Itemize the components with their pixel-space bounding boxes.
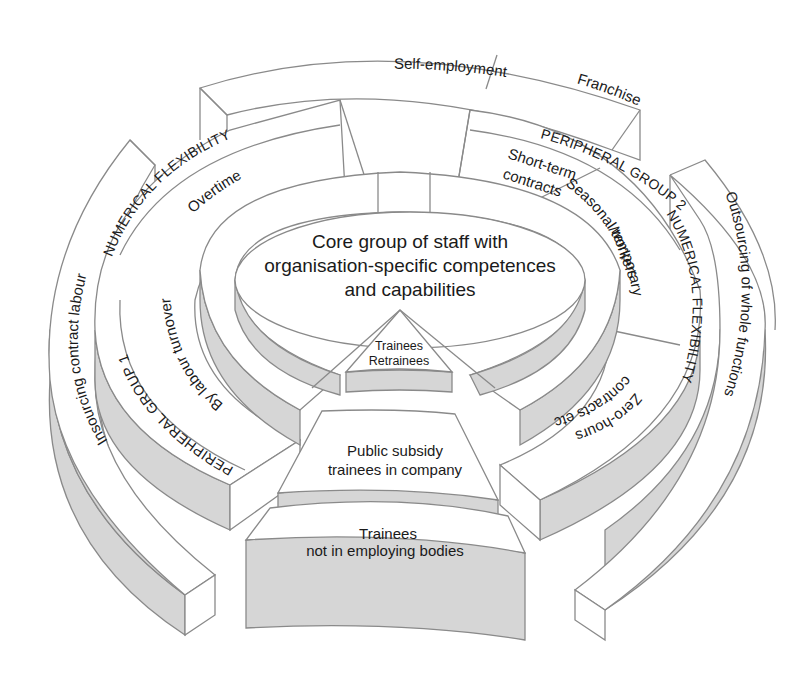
core-label-line1: Core group of staff with — [312, 231, 508, 252]
trainees-inner-line1: Trainees — [375, 339, 423, 353]
flexible-firm-diagram: Core group of staff with organisation-sp… — [0, 0, 800, 681]
public-subsidy-line1: Public subsidy — [347, 442, 443, 459]
core-label-line3: and capabilities — [345, 279, 476, 300]
trainees-outer-line2: not in employing bodies — [306, 542, 464, 559]
trainees-inner-line2: Retrainees — [369, 354, 429, 368]
core-label-line2: organisation-specific competences — [264, 255, 556, 276]
trainees-outer-line1: Trainees — [359, 525, 417, 542]
public-subsidy-line2: trainees in company — [328, 461, 463, 478]
